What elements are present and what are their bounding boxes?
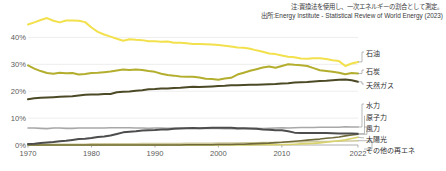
x-tick-label: 1990	[135, 149, 175, 158]
legend-leader-oil	[358, 52, 364, 62]
y-tick-label: 30%	[0, 60, 26, 69]
legend-label-hydro[interactable]: 水力	[366, 100, 380, 110]
legend-leader-nuclear	[358, 116, 365, 134]
legend-leader-coal	[358, 70, 364, 73]
legend-leader-hydro	[358, 104, 364, 127]
series-line-oil	[28, 18, 358, 66]
series-line-gas	[28, 79, 358, 99]
legend-label-oil[interactable]: 石油	[366, 48, 380, 58]
chart-root: 注:置換法を使用し、一次エネルギーの割合として測定。 出所:Energy Ins…	[0, 0, 446, 171]
series-line-coal	[28, 64, 358, 79]
y-tick-label: 40%	[0, 33, 26, 42]
x-tick-label: 2010	[262, 149, 302, 158]
legend-label-wind[interactable]: 風力	[366, 123, 380, 133]
legend-label-gas[interactable]: 天然ガス	[366, 80, 394, 90]
x-tick-label: 2000	[198, 149, 238, 158]
legend-label-solar[interactable]: 太陽光	[366, 134, 387, 144]
legend-label-other_renew[interactable]: その他の再エネ	[366, 145, 415, 155]
legend-leader-solar	[358, 137, 364, 138]
y-tick-label: 20%	[0, 87, 26, 96]
x-tick-label: 1970	[8, 149, 48, 158]
legend-label-coal[interactable]: 石炭	[366, 66, 380, 76]
x-tick-label: 1980	[71, 149, 111, 158]
legend-label-nuclear[interactable]: 原子力	[366, 112, 387, 122]
y-tick-label: 10%	[0, 114, 26, 123]
